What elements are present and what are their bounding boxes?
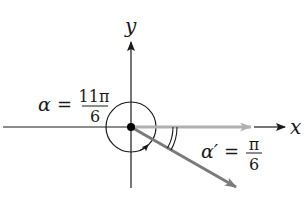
reference-angle-equals: = <box>224 141 239 162</box>
terminal-side-ray <box>131 127 236 187</box>
reference-angle-numerator: π <box>249 135 260 154</box>
angle-denominator: 6 <box>90 107 100 126</box>
angle-symbol: α <box>38 93 51 115</box>
x-axis-label: x <box>290 115 301 139</box>
reference-angle-symbol: α′ <box>201 140 219 162</box>
angle-diagram: y x α = 11π 6 α′ = π 6 <box>0 0 308 210</box>
reference-angle-label: α′ = π 6 <box>201 135 262 174</box>
angle-numerator: 11π <box>79 87 110 106</box>
y-axis-label: y <box>124 14 137 38</box>
reference-angle-denominator: 6 <box>249 155 259 174</box>
angle-label: α = 11π 6 <box>38 87 109 126</box>
rotation-arrow-icon <box>140 145 148 151</box>
origin-point <box>127 123 135 131</box>
reference-angle-arc-inner <box>168 127 174 148</box>
angle-equals: = <box>57 94 72 115</box>
